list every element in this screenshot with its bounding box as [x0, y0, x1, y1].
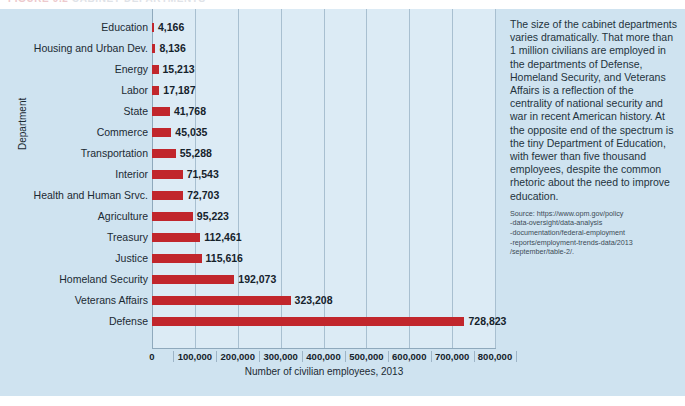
x-axis-title: Number of civilian employees, 2013: [152, 366, 496, 377]
x-tick-separator: [173, 351, 174, 362]
source-line: -data-oversight/data-analysis: [510, 218, 678, 228]
bar: [152, 23, 154, 32]
x-tick-label: 500,000: [349, 350, 383, 364]
x-axis-ticks: 0100,000200,000300,000400,000500,000600,…: [0, 350, 685, 364]
bar: [152, 212, 193, 221]
bar: [152, 275, 234, 284]
x-tick-separator: [388, 351, 389, 362]
figure-title-text: FIGURE 9.2 CABINET DEPARTMENTS: [8, 0, 206, 4]
source-line: -documentation/federal-employment: [510, 228, 678, 238]
x-tick-label: 200,000: [221, 350, 255, 364]
bar-value-label: 17,187: [163, 80, 195, 101]
x-tick-label: 800,000: [478, 350, 512, 364]
bar: [152, 233, 200, 242]
bar: [152, 170, 183, 179]
category-label: Education: [101, 17, 148, 38]
bar-row: Defense728,823: [0, 311, 685, 332]
bar: [152, 149, 176, 158]
x-tick-separator: [216, 351, 217, 362]
bar: [152, 254, 202, 263]
category-label: Energy: [115, 59, 148, 80]
commentary-body: The size of the cabinet departments vari…: [510, 18, 678, 203]
x-tick-separator: [345, 351, 346, 362]
category-label: Defense: [109, 311, 148, 332]
category-label: Agriculture: [98, 206, 148, 227]
bar-value-label: 192,073: [238, 269, 276, 290]
figure-title-strip: FIGURE 9.2 CABINET DEPARTMENTS: [0, 0, 685, 9]
category-label: Labor: [121, 80, 148, 101]
x-tick-label: 100,000: [178, 350, 212, 364]
bar-row: Homeland Security192,073: [0, 269, 685, 290]
x-tick-separator: [516, 351, 517, 362]
bar: [152, 191, 183, 200]
bar-value-label: 41,768: [174, 101, 206, 122]
bar: [152, 65, 159, 74]
figure-number: FIGURE 9.2: [8, 0, 68, 4]
x-axis-line: [152, 348, 496, 349]
category-label: Transportation: [81, 143, 148, 164]
bar-value-label: 15,213: [163, 59, 195, 80]
bar-value-label: 323,208: [295, 290, 333, 311]
bar: [152, 128, 171, 137]
bar: [152, 44, 155, 53]
bar-value-label: 72,703: [187, 185, 219, 206]
x-tick-separator: [431, 351, 432, 362]
bar-value-label: 55,288: [180, 143, 212, 164]
bar: [152, 317, 464, 326]
bar-value-label: 728,823: [468, 311, 506, 332]
category-label: Treasury: [107, 227, 148, 248]
category-label: Interior: [115, 164, 148, 185]
x-tick-label: 600,000: [392, 350, 426, 364]
figure-root: FIGURE 9.2 CABINET DEPARTMENTS Departmen…: [0, 0, 685, 406]
bar-value-label: 112,461: [204, 227, 241, 248]
bar-value-label: 71,543: [187, 164, 219, 185]
x-tick-label: 300,000: [263, 350, 297, 364]
x-tick-label: 0: [149, 350, 154, 364]
category-label: Housing and Urban Dev.: [34, 38, 148, 59]
x-tick-separator: [474, 351, 475, 362]
category-label: Homeland Security: [59, 269, 148, 290]
source-line: /september/table-2/.: [510, 247, 678, 257]
figure-caption: CABINET DEPARTMENTS: [72, 0, 206, 4]
bar-value-label: 4,166: [158, 17, 184, 38]
commentary-panel: The size of the cabinet departments vari…: [510, 18, 678, 257]
bar-value-label: 45,035: [175, 122, 207, 143]
category-label: Veterans Affairs: [75, 290, 148, 311]
bar-row: Veterans Affairs323,208: [0, 290, 685, 311]
category-label: Health and Human Srvc.: [34, 185, 148, 206]
x-tick-label: 400,000: [306, 350, 340, 364]
bar-value-label: 8,136: [159, 38, 185, 59]
bar: [152, 107, 170, 116]
source-citation: Source: https://www.opm.gov/policy-data-…: [510, 209, 678, 257]
bar-value-label: 95,223: [197, 206, 229, 227]
bar: [152, 296, 291, 305]
category-label: State: [123, 101, 148, 122]
category-label: Justice: [115, 248, 148, 269]
category-label: Commerce: [97, 122, 148, 143]
source-line: Source: https://www.opm.gov/policy: [510, 209, 678, 219]
x-tick-label: 700,000: [435, 350, 469, 364]
x-tick-separator: [259, 351, 260, 362]
x-tick-separator: [302, 351, 303, 362]
bar-value-label: 115,616: [206, 248, 243, 269]
source-line: -reports/employment-trends-data/2013: [510, 238, 678, 248]
bar: [152, 86, 159, 95]
